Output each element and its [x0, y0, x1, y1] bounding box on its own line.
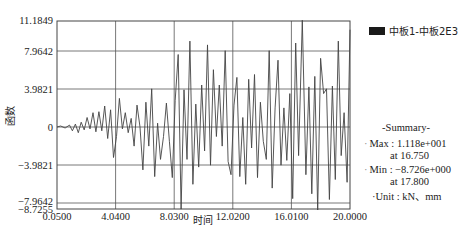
summary-max-at: at 16.750 [352, 150, 460, 162]
max-value: 1.118e+001 [397, 138, 447, 149]
min-label: Min : [370, 164, 393, 175]
bullet-icon: · [364, 138, 368, 149]
svg-text:12.0200: 12.0200 [216, 211, 250, 222]
bullet-icon: · [364, 164, 368, 175]
y-axis-title: 函数 [4, 106, 16, 126]
summary-title: -Summary- [352, 122, 460, 134]
min-at-label: at [390, 176, 398, 187]
grid-lines [57, 21, 350, 209]
svg-text:−3.9821: −3.9821 [18, 160, 53, 171]
svg-text:20.0000: 20.0000 [333, 211, 367, 222]
summary-unit: ·Unit : kN、mm [352, 191, 460, 203]
series-line [57, 20, 350, 210]
svg-text:7.9642: 7.9642 [24, 46, 53, 57]
summary-max: ·Max : 1.118e+001 [352, 138, 460, 150]
unit-value: kN、mm [402, 191, 441, 202]
x-axis-title: 时间 [193, 214, 213, 226]
plot-frame [57, 21, 350, 209]
legend-label: 中板1-中板2E3 [389, 23, 458, 38]
min-value: −8.726e+000 [395, 164, 451, 175]
svg-text:0: 0 [48, 122, 53, 133]
svg-text:8.0300: 8.0300 [160, 211, 189, 222]
svg-text:0.0500: 0.0500 [43, 211, 72, 222]
max-at-label: at [390, 150, 398, 161]
max-label: Max : [370, 138, 395, 149]
max-at-value: 16.750 [400, 150, 429, 161]
summary-min: ·Min : −8.726e+000 [352, 164, 460, 176]
svg-text:11.1849: 11.1849 [19, 15, 53, 26]
min-at-value: 17.800 [400, 176, 429, 187]
svg-text:3.9821: 3.9821 [24, 84, 53, 95]
unit-label: Unit : [376, 191, 400, 202]
summary-panel: -Summary- ·Max : 1.118e+001 at 16.750 ·M… [352, 122, 460, 203]
svg-text:16.0100: 16.0100 [274, 211, 308, 222]
svg-text:4.0400: 4.0400 [101, 211, 130, 222]
legend-swatch-icon [369, 27, 385, 35]
y-axis-ticks: 11.18497.96423.98210−3.9821−7.9642−8.725… [18, 15, 53, 215]
summary-min-at: at 17.800 [352, 176, 460, 188]
legend: 中板1-中板2E3 [369, 23, 458, 38]
